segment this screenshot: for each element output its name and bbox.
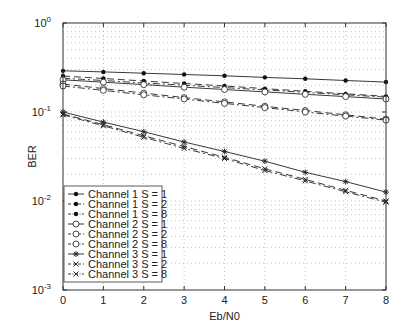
y-axis-label: BER xyxy=(26,145,38,168)
x-tick-label: 1 xyxy=(100,294,106,306)
x-tick-label: 7 xyxy=(343,294,349,306)
x-tick-label: 4 xyxy=(221,294,227,306)
x-axis-label: Eb/N0 xyxy=(209,310,240,322)
series-line xyxy=(60,109,389,195)
x-tick-label: 2 xyxy=(141,294,147,306)
legend: Channel 1 S = 1Channel 1 S = 2Channel 1 … xyxy=(64,186,167,282)
data-series xyxy=(60,69,389,205)
legend-label: Channel 3 S = 8 xyxy=(88,268,167,280)
x-tick-label: 3 xyxy=(181,294,187,306)
x-tick-label: 5 xyxy=(262,294,268,306)
ber-chart: 012345678 10010-110-210-3 Eb/N0 BER Chan… xyxy=(0,0,411,330)
x-tick-label: 6 xyxy=(302,294,308,306)
y-tick-label: 10-1 xyxy=(32,104,52,118)
y-tick-label: 10-3 xyxy=(32,282,52,296)
x-tick-label: 8 xyxy=(383,294,389,306)
x-tick-label: 0 xyxy=(60,294,66,306)
series-line xyxy=(61,69,388,85)
y-tick-label: 10-2 xyxy=(32,193,52,207)
y-tick-label: 100 xyxy=(34,15,51,29)
